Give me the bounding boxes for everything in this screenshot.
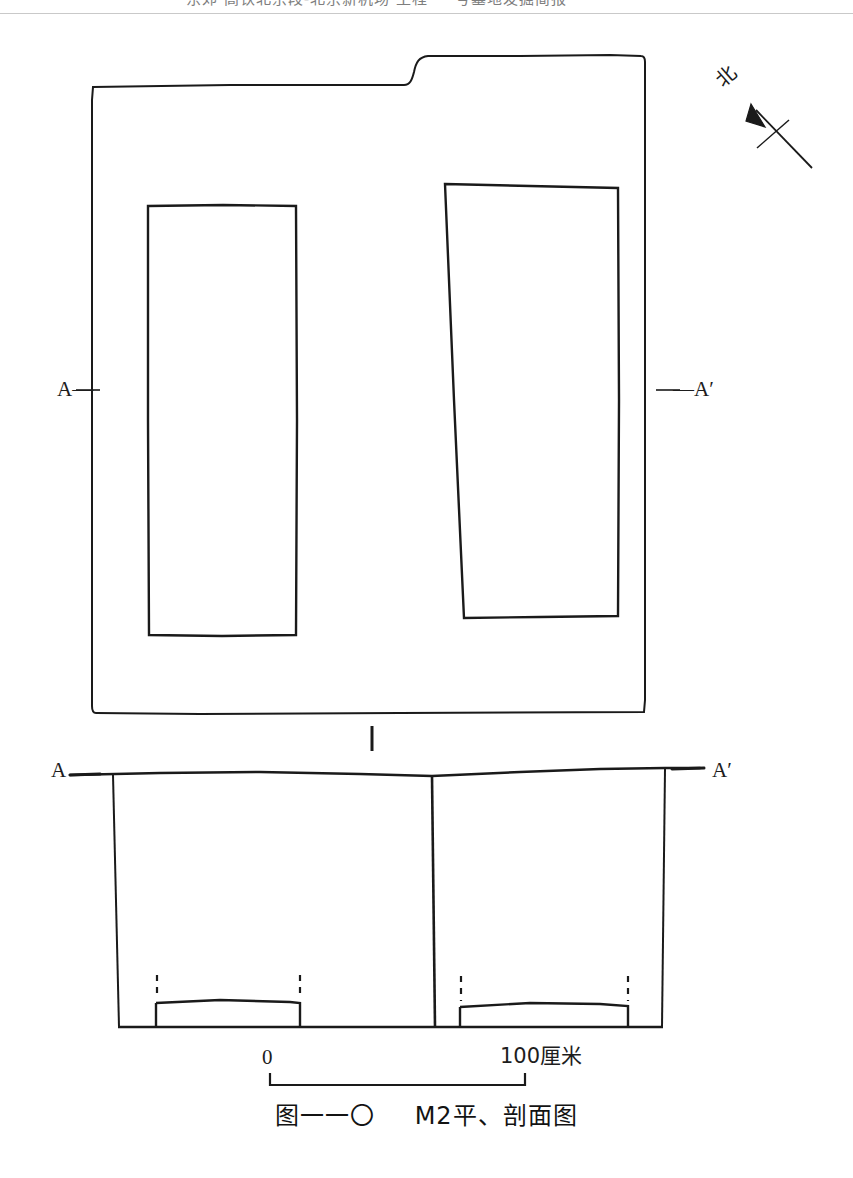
north-arrow-shaft bbox=[756, 110, 812, 168]
figure-caption-number: 图一一〇 bbox=[275, 1102, 375, 1130]
scale-bar-bracket bbox=[270, 1073, 525, 1085]
plan-view-group bbox=[92, 55, 645, 714]
plan-pit-outline bbox=[92, 55, 645, 714]
section-view-group bbox=[70, 768, 700, 1027]
section-label-a: A bbox=[51, 760, 66, 781]
scale-bar-min-label: 0 bbox=[262, 1047, 273, 1068]
plan-section-label-a: A— bbox=[57, 379, 93, 400]
section-coffin-right bbox=[460, 1003, 628, 1027]
figure-caption-title: M2平、剖面图 bbox=[415, 1102, 578, 1130]
plan-coffin-left bbox=[148, 205, 297, 636]
section-leader-right bbox=[672, 768, 704, 769]
scale-bar-group bbox=[270, 1073, 525, 1085]
section-wall-left bbox=[113, 775, 119, 1027]
section-wall-right bbox=[662, 769, 665, 1027]
section-coffin-left bbox=[156, 1000, 300, 1027]
figure-svg bbox=[0, 0, 853, 1178]
section-leader-left bbox=[70, 774, 100, 775]
north-arrow-group bbox=[746, 104, 812, 168]
section-ground-line bbox=[70, 768, 700, 776]
section-wall-middle bbox=[432, 776, 435, 1027]
plan-coffin-right bbox=[445, 184, 619, 618]
plan-section-label-a-prime: —A′ bbox=[673, 379, 714, 400]
figure-caption: 图一一〇 M2平、剖面图 bbox=[0, 1096, 853, 1131]
scale-bar-max-label: 100厘米 bbox=[500, 1046, 582, 1067]
figure-drawing bbox=[0, 0, 853, 1178]
section-label-a-prime: A′ bbox=[712, 760, 732, 781]
